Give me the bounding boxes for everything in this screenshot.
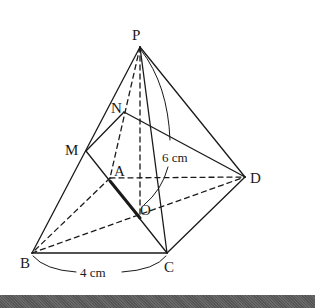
label-P: P	[132, 27, 140, 43]
height-measure-label: 6 cm	[162, 150, 188, 165]
label-N: N	[111, 100, 122, 116]
base-measure-label: 4 cm	[80, 265, 106, 280]
base-arc-right	[122, 256, 166, 272]
segment-AC-thick	[110, 181, 140, 218]
segment-MN	[86, 112, 124, 151]
label-C: C	[164, 259, 174, 275]
edge-AB	[32, 178, 110, 253]
base-arc-left	[33, 256, 76, 272]
label-D: D	[250, 170, 261, 186]
pyramid-diagram: P N M A O D B C 6 cm 4 cm	[0, 0, 315, 308]
height-arc	[141, 50, 170, 140]
edge-PD	[140, 47, 245, 177]
edge-AD	[110, 177, 245, 178]
edge-CD	[167, 177, 245, 253]
edge-PB	[32, 47, 140, 253]
segment-ND	[124, 112, 245, 177]
diagonal-BD	[32, 177, 245, 253]
label-M: M	[65, 142, 78, 158]
label-A: A	[114, 163, 125, 179]
label-B: B	[20, 255, 30, 271]
label-O: O	[140, 202, 151, 218]
bottom-border-bar	[0, 295, 315, 308]
